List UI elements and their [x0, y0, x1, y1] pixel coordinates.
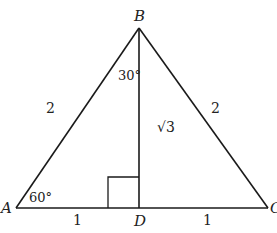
vertex-label-a: A: [0, 199, 12, 217]
side-ab: [16, 28, 139, 208]
side-label-ad: 1: [73, 212, 82, 228]
vertex-label-c: C: [270, 199, 277, 217]
triangle-diagram: B A C D 2 2 √3 1 1 60° 30°: [0, 0, 277, 233]
vertex-label-b: B: [133, 7, 145, 25]
side-label-bc: 2: [211, 100, 220, 116]
vertex-label-d: D: [133, 212, 146, 230]
side-label-dc: 1: [203, 212, 212, 228]
angle-label-abd: 30°: [118, 68, 141, 83]
side-bc: [139, 28, 268, 208]
angle-label-a: 60°: [29, 190, 52, 205]
side-label-bd: √3: [157, 119, 175, 135]
side-label-ab: 2: [46, 100, 55, 116]
right-angle-marker: [108, 177, 139, 208]
